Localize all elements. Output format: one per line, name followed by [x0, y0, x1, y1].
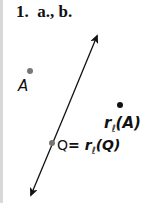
- point-q: [49, 140, 55, 146]
- label-a: A: [18, 77, 28, 95]
- point-ra: [117, 102, 123, 108]
- diagram-canvas: [0, 0, 158, 203]
- label-q: Q= rℓ(Q): [57, 137, 120, 156]
- reflection-line: [64, 36, 97, 116]
- label-ra: rℓ(A): [104, 114, 141, 134]
- point-a: [27, 68, 33, 74]
